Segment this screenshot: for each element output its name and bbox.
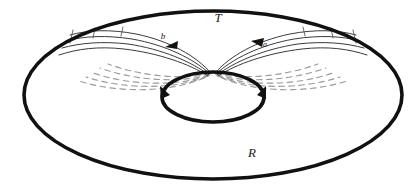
label-T: T — [214, 10, 222, 25]
torus-diagram-canvas: T R a b — [0, 0, 420, 189]
label-a: a — [263, 40, 267, 49]
label-R: R — [247, 145, 256, 160]
label-b: b — [161, 31, 166, 41]
diagram-background — [0, 0, 420, 189]
torus-figure: T R a b — [0, 0, 420, 189]
